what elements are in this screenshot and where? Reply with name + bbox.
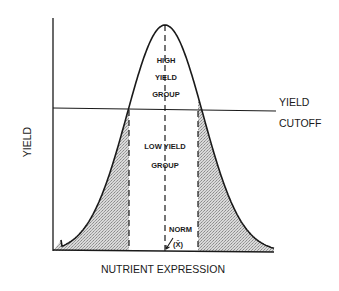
high-yield-label-line1: HIGH	[157, 56, 176, 65]
low-yield-label-line2: GROUP	[151, 161, 179, 170]
right-tail-shading	[198, 96, 274, 252]
yield-cutoff-label-line2: CUTOFF	[279, 117, 321, 129]
yield-cutoff-label-line1: YIELD	[279, 96, 310, 108]
left-tail-shading	[53, 107, 129, 251]
x-axis-label: NUTRIENT EXPRESSION	[101, 263, 225, 275]
yield-nutrient-diagram: YIELD NUTRIENT EXPRESSION YIELD CUTOFF H…	[0, 0, 339, 291]
y-axis-label: YIELD	[21, 126, 33, 157]
norm-arrow-icon	[166, 238, 173, 249]
norm-label: NORM	[169, 225, 192, 234]
norm-x-bar-label: (X̄)	[173, 240, 184, 249]
high-yield-label-line2: YIELD	[155, 73, 178, 82]
high-yield-label-line3: GROUP	[152, 90, 180, 99]
low-yield-label-line1: LOW YIELD	[144, 142, 186, 151]
